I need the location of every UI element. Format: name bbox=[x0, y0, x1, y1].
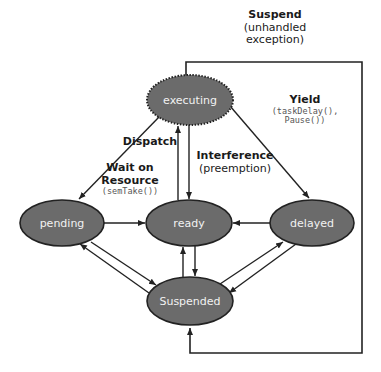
edge-delayed-to-suspended bbox=[229, 244, 296, 293]
label-wait-on-resource: Wait on Resource (semTake()) bbox=[97, 162, 163, 197]
state-delayed: delayed bbox=[270, 200, 354, 246]
state-diagram: executing pending ready delayed Suspende… bbox=[0, 0, 381, 372]
edge-suspended-to-delayed bbox=[220, 242, 283, 284]
state-suspended: Suspended bbox=[147, 277, 233, 325]
edge-pending-to-suspended bbox=[91, 242, 156, 285]
state-ready: ready bbox=[146, 200, 232, 246]
label-yield: Yield (taskDelay(), Pause()) bbox=[262, 94, 348, 126]
label-dispatch-title: Dispatch bbox=[122, 136, 178, 149]
label-wait-code: (semTake()) bbox=[97, 187, 163, 197]
state-executing: executing bbox=[147, 75, 233, 125]
state-delayed-label: delayed bbox=[290, 217, 334, 230]
label-interference: Interference (preemption) bbox=[192, 150, 278, 175]
label-interference-title: Interference bbox=[192, 150, 278, 163]
state-suspended-label: Suspended bbox=[159, 295, 220, 308]
label-yield-title: Yield bbox=[262, 94, 348, 107]
state-executing-label: executing bbox=[163, 94, 217, 107]
state-ready-label: ready bbox=[173, 217, 205, 230]
label-suspend: Suspend (unhandled exception) bbox=[225, 9, 325, 47]
label-interference-sub: (preemption) bbox=[192, 163, 278, 176]
edge-suspended-to-pending bbox=[80, 244, 149, 293]
label-yield-code2: Pause()) bbox=[262, 116, 348, 126]
state-pending: pending bbox=[20, 200, 104, 246]
label-suspend-line2: exception) bbox=[225, 34, 325, 47]
label-suspend-title: Suspend bbox=[225, 9, 325, 22]
label-wait-title1: Wait on bbox=[97, 162, 163, 175]
label-dispatch: Dispatch bbox=[122, 136, 178, 149]
state-pending-label: pending bbox=[40, 217, 85, 230]
